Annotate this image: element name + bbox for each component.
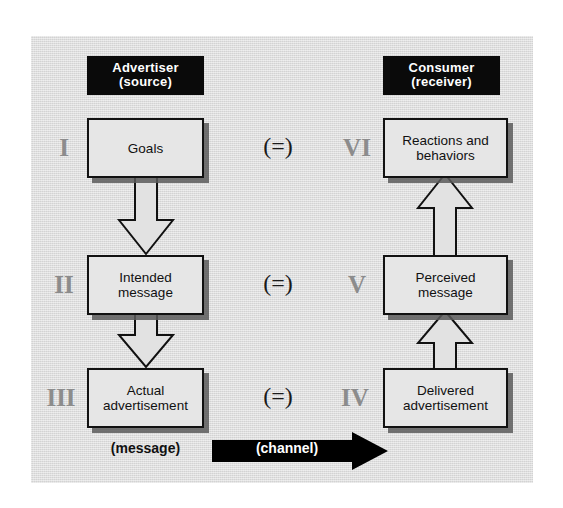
box-actual-line2: advertisement — [103, 398, 188, 413]
box-goals: Goals — [87, 118, 204, 178]
equals-marker-row1: (=) — [248, 133, 308, 160]
arrow-down-intended-to-actual — [113, 309, 179, 371]
box-reactions-line1: Reactions and — [402, 133, 488, 148]
arrow-up-perceived-to-reactions — [412, 172, 478, 258]
column-header-consumer-line2: (receiver) — [411, 74, 472, 89]
column-header-advertiser-line1: Advertiser — [112, 60, 178, 75]
box-actual-advertisement: Actual advertisement — [87, 368, 204, 428]
equals-marker-row2: (=) — [248, 270, 308, 297]
column-header-advertiser-line2: (source) — [119, 74, 172, 89]
box-intended-line1: Intended — [118, 270, 173, 285]
box-perceived-line2: message — [415, 285, 475, 300]
channel-arrow-icon — [212, 432, 388, 478]
message-label: (message) — [79, 440, 212, 456]
box-perceived-line1: Perceived — [415, 270, 475, 285]
numeral-iii: III — [41, 384, 81, 412]
column-header-advertiser: Advertiser (source) — [87, 56, 204, 95]
column-header-consumer: Consumer (receiver) — [383, 56, 500, 95]
box-delivered-line1: Delivered — [403, 383, 488, 398]
box-intended-line2: message — [118, 285, 173, 300]
diagram-canvas: Advertiser (source) Consumer (receiver) … — [0, 0, 563, 508]
numeral-v: V — [337, 271, 377, 299]
box-reactions-and-behaviors: Reactions and behaviors — [383, 118, 508, 178]
box-reactions-line2: behaviors — [402, 148, 488, 163]
box-delivered-advertisement: Delivered advertisement — [383, 368, 508, 428]
box-intended-message: Intended message — [87, 255, 204, 315]
numeral-iv: IV — [333, 384, 377, 412]
numeral-ii: II — [47, 271, 81, 299]
box-goals-line1: Goals — [128, 141, 163, 156]
arrow-up-delivered-to-perceived — [412, 309, 478, 371]
numeral-i: I — [47, 134, 81, 162]
column-header-consumer-line1: Consumer — [409, 60, 475, 75]
arrow-down-goals-to-intended — [113, 172, 179, 258]
box-delivered-line2: advertisement — [403, 398, 488, 413]
box-actual-line1: Actual — [103, 383, 188, 398]
equals-marker-row3: (=) — [248, 383, 308, 410]
box-perceived-message: Perceived message — [383, 255, 508, 315]
numeral-vi: VI — [335, 134, 379, 162]
